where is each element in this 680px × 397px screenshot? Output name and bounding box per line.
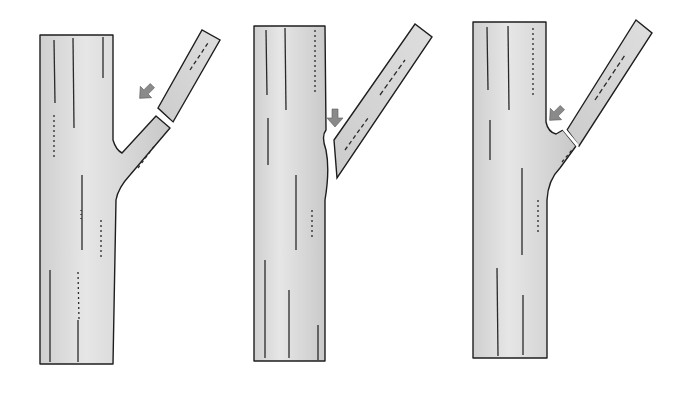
diagram-canvas <box>0 0 680 397</box>
trunk-3 <box>473 22 576 358</box>
pruning-diagram: Cut beyond branch collar (stub left) Flu… <box>0 0 680 397</box>
panel-2 <box>254 24 432 361</box>
panel-1 <box>40 30 220 364</box>
arrow-icon <box>544 102 568 126</box>
branch-2-severed <box>334 24 432 178</box>
arrow-icon <box>327 109 343 127</box>
arrow-icon <box>134 80 158 104</box>
branch-1-severed <box>158 30 220 122</box>
panel-3 <box>473 20 652 358</box>
branch-3-severed <box>567 20 652 146</box>
